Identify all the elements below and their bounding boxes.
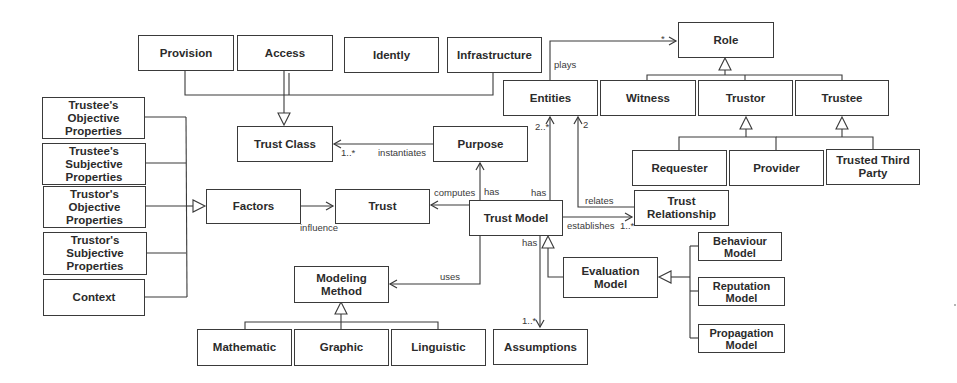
label-instantiates: instantiates (378, 148, 426, 158)
class-trust-class[interactable]: Trust Class (237, 126, 333, 162)
label-computes: computes (434, 188, 475, 198)
class-mathematic[interactable]: Mathematic (197, 329, 292, 366)
label-assumptions-multiplicity: 1..* (522, 316, 536, 326)
label-uses: uses (440, 272, 460, 282)
class-purpose[interactable]: Purpose (433, 126, 528, 162)
class-propagation-model[interactable]: Propagation Model (698, 324, 785, 353)
label-entities-multiplicity-relates: 2 (583, 120, 588, 130)
label-has-entities: has (531, 188, 546, 198)
class-trust[interactable]: Trust (335, 189, 430, 224)
class-evaluation-model[interactable]: Evaluation Model (563, 257, 658, 298)
class-entities[interactable]: Entities (503, 80, 598, 116)
class-trustor[interactable]: Trustor (698, 80, 793, 116)
class-trustee-objective-properties[interactable]: Trustee's Objective Properties (42, 97, 145, 139)
class-idently[interactable]: Idently (344, 37, 439, 73)
class-trust-model[interactable]: Trust Model (469, 200, 563, 236)
class-context[interactable]: Context (43, 279, 145, 316)
label-relates: relates (585, 196, 614, 206)
label-plays-multiplicity: * (661, 34, 665, 44)
label-influence: influence (300, 223, 338, 233)
class-graphic[interactable]: Graphic (294, 329, 389, 366)
class-trustor-objective-properties[interactable]: Trustor's Objective Properties (43, 186, 146, 228)
class-requester[interactable]: Requester (632, 150, 727, 186)
label-has-assumptions: has (522, 238, 537, 248)
class-access[interactable]: Access (237, 35, 333, 71)
speck-dot (954, 304, 956, 306)
class-trustee-subjective-properties[interactable]: Trustee's Subjective Properties (42, 143, 146, 185)
class-reputation-model[interactable]: Reputation Model (698, 277, 785, 306)
class-witness[interactable]: Witness (600, 80, 696, 116)
class-modeling-method[interactable]: Modeling Method (294, 266, 389, 303)
class-trustor-subjective-properties[interactable]: Trustor's Subjective Properties (43, 232, 147, 275)
class-factors[interactable]: Factors (206, 189, 301, 224)
label-has-purpose: has (484, 187, 499, 197)
class-trusted-third-party[interactable]: Trusted Third Party (826, 149, 920, 185)
class-role[interactable]: Role (678, 22, 774, 58)
label-instantiates-multiplicity: 1..* (341, 148, 355, 158)
class-assumptions[interactable]: Assumptions (493, 329, 588, 365)
label-entities-multiplicity-has: 2..* (535, 122, 549, 132)
uml-diagram-canvas: Provision Access Idently Infrastructure … (0, 0, 957, 383)
label-establishes: establishes (567, 221, 615, 231)
class-trust-relationship[interactable]: Trust Relationship (634, 190, 729, 226)
class-provider[interactable]: Provider (729, 150, 824, 186)
class-linguistic[interactable]: Linguistic (391, 329, 486, 366)
class-infrastructure[interactable]: Infrastructure (447, 37, 542, 73)
class-behaviour-model[interactable]: Behaviour Model (698, 232, 782, 261)
class-trustee[interactable]: Trustee (795, 80, 889, 116)
class-provision[interactable]: Provision (138, 35, 234, 71)
label-plays: plays (554, 60, 576, 70)
label-establishes-multiplicity: 1..* (620, 221, 634, 231)
